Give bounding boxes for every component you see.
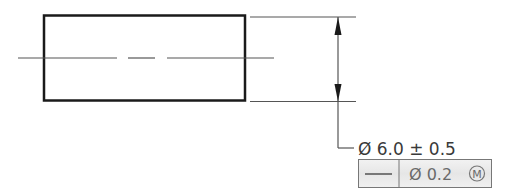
arrow-up-icon xyxy=(335,17,342,35)
mmc-modifier-label: M xyxy=(472,168,482,181)
dimension-line xyxy=(335,17,355,148)
tolerance-value: Ø 0.2 xyxy=(409,165,452,184)
arrow-down-icon xyxy=(335,84,342,102)
dimension-text: Ø 6.0 ± 0.5 xyxy=(358,139,456,159)
technical-drawing: Ø 6.0 ± 0.5 Ø 0.2 M xyxy=(0,0,511,196)
feature-control-frame: Ø 0.2 M xyxy=(359,160,492,188)
